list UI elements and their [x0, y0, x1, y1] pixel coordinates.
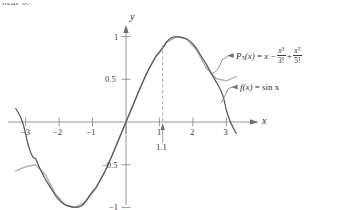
x-tick-label--3: −3	[21, 128, 30, 137]
legend-taylor-equals: =	[257, 51, 262, 61]
figure-root: near 0.	[0, 0, 341, 210]
x-axis-arrowhead	[250, 119, 258, 124]
frac2-exponent: 5	[298, 46, 301, 52]
y-axis-label: y	[130, 12, 134, 22]
x-tick-label--1: −1	[87, 128, 96, 137]
legend-sin-arg: (x)	[243, 82, 253, 92]
leader-arrowhead-sin	[232, 85, 238, 90]
legend-sin-expr: sin x	[262, 82, 279, 92]
legend-taylor-plus: +	[287, 51, 292, 61]
legend-taylor-equation: P5(x) = x −x33!+x55!	[236, 47, 303, 65]
annotation-label-1.1: 1.1	[156, 143, 167, 152]
taylor-approximation-plot	[0, 0, 341, 210]
legend-taylor-minus: −	[271, 51, 276, 61]
leader-arrowhead-taylor	[228, 53, 234, 58]
legend-taylor-frac1-denominator: 3!	[277, 56, 286, 64]
y-tick-label--0.5: −0.5	[102, 161, 117, 170]
legend-taylor-frac2-denominator: 5!	[293, 56, 302, 64]
x-tick-label-1: 1	[157, 128, 161, 137]
x-tick-label--2: −2	[53, 128, 62, 137]
leader-line-taylor	[210, 56, 229, 75]
y-tick-label--1: −1	[109, 203, 118, 210]
y-tick-label-1: 1	[114, 33, 118, 42]
legend-taylor-fraction-2: x55!	[293, 47, 302, 65]
legend-taylor-fraction-1: x33!	[277, 47, 286, 65]
frac1-exponent: 3	[282, 46, 285, 52]
y-axis-arrowhead	[123, 25, 128, 33]
x-tick-label-2: 2	[190, 128, 194, 137]
x-tick-label-3: 3	[224, 128, 228, 137]
legend-taylor-term1: x	[264, 51, 268, 61]
legend-sin-equals: =	[255, 82, 260, 92]
y-tick-label-0.5: 0.5	[105, 75, 116, 84]
legend-sin-equation: f(x) = sin x	[240, 83, 279, 92]
legend-taylor-arg: (x)	[245, 51, 255, 61]
x-axis-label: x	[262, 116, 266, 126]
